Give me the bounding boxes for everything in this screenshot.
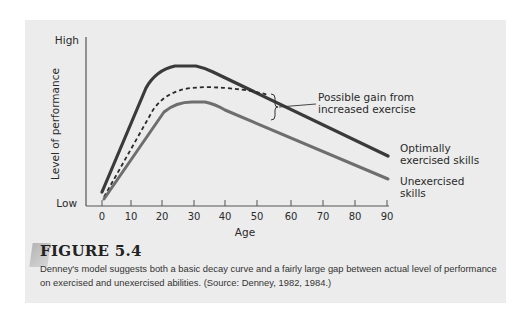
optimal-label-line1: Optimally — [400, 142, 451, 154]
svg-text:70: 70 — [317, 211, 330, 222]
optimal-label-line2: exercised skills — [400, 154, 479, 166]
svg-text:20: 20 — [156, 211, 169, 222]
unexercised-curve — [104, 102, 388, 199]
y-low-label: Low — [56, 197, 77, 209]
svg-text:30: 30 — [188, 211, 201, 222]
x-axis-title: Age — [235, 226, 255, 238]
unexercised-label-line2: skills — [400, 187, 426, 199]
gain-brace — [271, 94, 278, 120]
svg-text:60: 60 — [285, 211, 298, 222]
svg-text:50: 50 — [251, 211, 264, 222]
svg-text:90: 90 — [381, 211, 394, 222]
svg-text:0: 0 — [99, 211, 105, 222]
y-axis-title: Level of performance — [49, 68, 61, 180]
gain-label-line2: increased exercise — [318, 103, 416, 115]
unexercised-label-line1: Unexercised — [400, 175, 464, 187]
x-tick-labels: 0 10 20 30 40 50 60 70 80 90 — [99, 211, 394, 222]
x-ticks — [102, 200, 387, 206]
figure-caption: Denney's model suggests both a basic dec… — [40, 262, 500, 289]
figure-label: FIGURE 5.4 — [40, 242, 142, 260]
optimal-curve — [102, 66, 388, 192]
gain-label-line1: Possible gain from — [318, 91, 414, 103]
svg-text:80: 80 — [349, 211, 362, 222]
y-high-label: High — [55, 34, 79, 46]
svg-text:10: 10 — [125, 211, 138, 222]
svg-text:40: 40 — [219, 211, 232, 222]
